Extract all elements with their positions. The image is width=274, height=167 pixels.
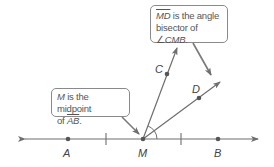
point-b <box>216 137 221 142</box>
callout-top-period: . <box>185 34 187 45</box>
point-m <box>141 137 146 142</box>
callout-angle-bisector: MD is the angle bisector of ∠CMB. <box>150 5 228 43</box>
ray-mc <box>143 48 177 139</box>
point-a <box>66 137 71 142</box>
callout-pointer-top <box>193 43 211 75</box>
callout-pointer-left <box>122 117 139 134</box>
callout-top-line1: MD is the angle <box>156 10 222 22</box>
segment-ab: AB <box>67 115 79 126</box>
geometry-figure <box>0 0 274 167</box>
callout-left-period: . <box>79 115 81 126</box>
callout-midpoint: M is the midpoint of AB. <box>51 88 130 117</box>
segment-md: MD <box>156 10 170 21</box>
callout-left-text2: of <box>57 115 67 126</box>
callout-left-line2: of AB. <box>57 115 124 127</box>
point-d <box>197 96 202 101</box>
label-c: C <box>155 63 163 75</box>
point-m-ref: M <box>57 91 65 102</box>
label-a: A <box>63 147 70 159</box>
angle-cmb: CMB <box>165 34 186 45</box>
callout-top-line2: bisector of ∠CMB. <box>156 22 222 46</box>
callout-left-line1: M is the midpoint <box>57 91 124 115</box>
label-m: M <box>138 147 147 159</box>
callout-top-text1: is the angle <box>170 10 219 21</box>
angle-symbol-icon: ∠ <box>156 34 165 45</box>
label-d: D <box>192 83 200 95</box>
label-b: B <box>214 147 221 159</box>
point-c <box>165 72 170 77</box>
callout-top-text2: bisector of <box>156 22 198 33</box>
